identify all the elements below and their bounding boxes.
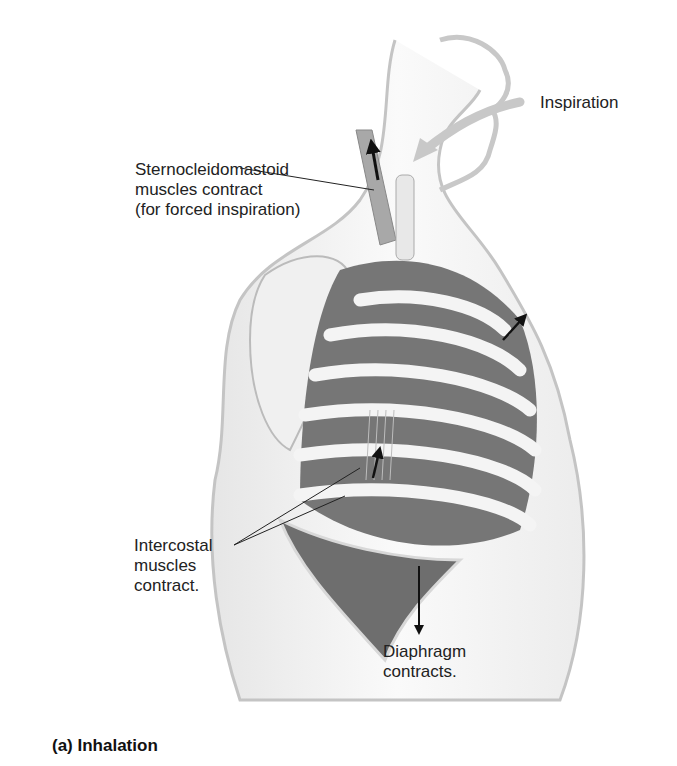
diaphragm-label-line1: Diaphragm (383, 642, 466, 662)
inspiration-label: Inspiration (540, 93, 618, 113)
inhalation-diagram (0, 0, 677, 766)
scm-label-line1: Sternocleidomastoid (135, 160, 289, 180)
scm-label-line3: (for forced inspiration) (135, 200, 300, 220)
intercostal-label-line2: muscles (134, 556, 196, 576)
scm-label-line2: muscles contract (135, 180, 263, 200)
intercostal-label-line3: contract. (134, 576, 199, 596)
intercostal-label-line1: Intercostal (134, 536, 212, 556)
trachea (396, 175, 414, 260)
diaphragm-label-line2: contracts. (383, 662, 457, 682)
figure-caption: (a) Inhalation (52, 736, 158, 756)
rib-cage (300, 261, 537, 546)
